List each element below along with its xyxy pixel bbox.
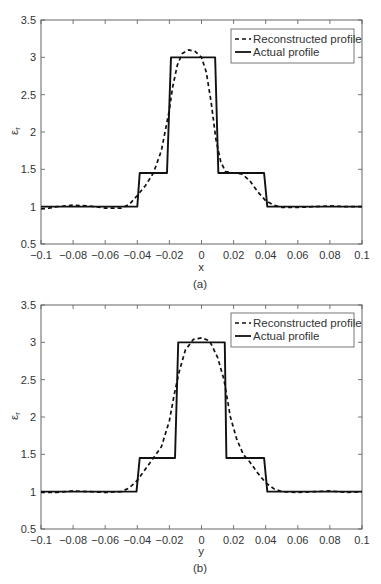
x-tick-label: 0.06: [287, 534, 308, 546]
y-tick-label: 0.5: [21, 523, 36, 535]
x-tick-label: 0.04: [255, 534, 276, 546]
x-tick-label: 0.06: [287, 249, 308, 261]
x-tick-label: −0.06: [91, 249, 119, 261]
x-tick-label: 0.1: [354, 249, 369, 261]
y-tick-label: 0.5: [21, 238, 36, 250]
x-tick-label: −0.04: [123, 534, 151, 546]
y-tick-label: 2: [30, 411, 36, 423]
y-tick-label: 1: [30, 201, 36, 213]
legend-label-reconstructed: Reconstructed profile: [253, 317, 362, 329]
y-tick-label: 1.5: [21, 448, 36, 460]
x-tick-label: −0.08: [59, 249, 87, 261]
y-tick-label: 2.5: [21, 374, 36, 386]
y-tick-label: 3.5: [21, 299, 36, 311]
x-tick-label: −0.02: [155, 249, 183, 261]
panel-label: (a): [193, 278, 207, 290]
legend-label-reconstructed: Reconstructed profile: [253, 33, 362, 45]
legend-label-actual: Actual profile: [253, 46, 319, 58]
chart-panel-b: −0.1−0.08−0.06−0.04−0.0200.020.040.060.0…: [8, 299, 370, 574]
y-tick-label: 3: [30, 336, 36, 348]
x-tick-label: −0.1: [30, 534, 52, 546]
figure: −0.1−0.08−0.06−0.04−0.0200.020.040.060.0…: [0, 0, 381, 584]
x-tick-label: −0.02: [155, 534, 183, 546]
x-tick-label: 0.04: [255, 249, 276, 261]
y-tick-label: 3: [30, 51, 36, 63]
x-tick-label: 0.1: [354, 534, 369, 546]
y-tick-label: 2.5: [21, 89, 36, 101]
y-axis-label: εr: [8, 412, 22, 420]
x-tick-label: 0.08: [319, 534, 340, 546]
reconstructed-profile-line: [41, 50, 362, 209]
actual-profile-line: [41, 342, 362, 491]
legend: Reconstructed profile Actual profile: [231, 313, 362, 347]
x-tick-label: 0.02: [223, 534, 244, 546]
legend: Reconstructed profile Actual profile: [231, 29, 362, 63]
chart-panel-a: −0.1−0.08−0.06−0.04−0.0200.020.040.060.0…: [8, 14, 370, 290]
y-tick-label: 1: [30, 486, 36, 498]
x-tick-label: −0.1: [30, 249, 52, 261]
y-tick-label: 1.5: [21, 163, 36, 175]
y-axis-label: εr: [8, 127, 22, 135]
actual-profile-line: [41, 57, 362, 206]
x-tick-label: 0.08: [319, 249, 340, 261]
x-axis-label: x: [198, 261, 204, 273]
x-axis-label: y: [198, 545, 204, 557]
x-tick-label: 0: [198, 249, 204, 261]
x-tick-label: 0.02: [223, 249, 244, 261]
panel-label: (b): [193, 562, 207, 574]
reconstructed-profile-line: [41, 338, 362, 493]
legend-label-actual: Actual profile: [253, 330, 319, 342]
x-tick-label: −0.08: [59, 534, 87, 546]
y-tick-label: 3.5: [21, 14, 36, 26]
x-tick-label: −0.06: [91, 534, 119, 546]
y-tick-label: 2: [30, 126, 36, 138]
x-tick-label: −0.04: [123, 249, 151, 261]
